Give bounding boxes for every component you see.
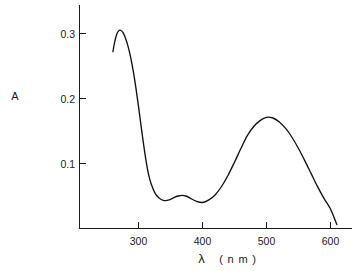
y-tick-label-0.1: 0.1 [60, 158, 75, 170]
x-axis-ticks [139, 222, 331, 229]
y-axis-ticks [80, 34, 87, 164]
y-axis-title: A [11, 90, 19, 102]
x-tick-label-400: 400 [194, 235, 212, 247]
y-tick-label-0.3: 0.3 [60, 28, 75, 40]
absorbance-curve [113, 30, 337, 224]
spectrum-plot: 0.3 0.2 0.1 300 400 500 600 A λ ( n m ) [0, 0, 360, 271]
lambda-symbol: λ [198, 251, 206, 266]
y-tick-label-0.2: 0.2 [60, 93, 75, 105]
x-tick-label-300: 300 [130, 235, 148, 247]
spectrum-figure: 0.3 0.2 0.1 300 400 500 600 A λ ( n m ) [0, 0, 360, 271]
x-tick-label-500: 500 [258, 235, 276, 247]
x-tick-label-600: 600 [322, 235, 340, 247]
x-axis-unit: ( n m ) [219, 253, 256, 265]
x-axis-title: λ ( n m ) [198, 251, 256, 266]
